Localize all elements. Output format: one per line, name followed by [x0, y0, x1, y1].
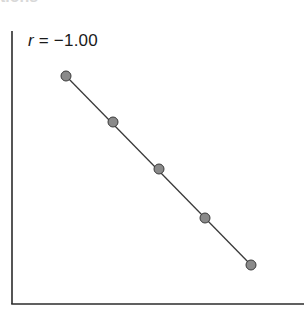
data-point	[108, 117, 118, 127]
data-point	[246, 260, 256, 270]
equals-sign: =	[34, 31, 54, 50]
correlation-label: r = −1.00	[28, 31, 98, 51]
data-point	[61, 71, 71, 81]
data-point	[200, 213, 210, 223]
correlation-value: −1.00	[54, 31, 98, 50]
data-point	[154, 164, 164, 174]
